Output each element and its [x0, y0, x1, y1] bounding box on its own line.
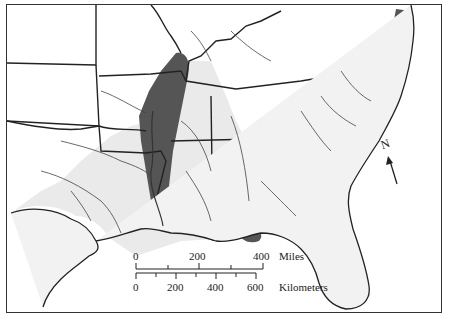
scale-miles-tick-200: 200 — [189, 250, 206, 262]
scale-bar-graphic — [136, 263, 263, 279]
gulf-coastline — [11, 5, 414, 309]
scale-km-tick-200: 200 — [167, 281, 184, 293]
map-frame: 0 200 400 Miles 0 200 400 600 Kilometers… — [6, 4, 442, 313]
scale-km-tick-600: 600 — [247, 281, 264, 293]
scale-miles-tick-400: 400 — [253, 250, 270, 262]
scale-km-unit: Kilometers — [279, 281, 328, 293]
scale-km-tick-400: 400 — [207, 281, 224, 293]
north-arrow-icon — [386, 156, 397, 184]
scale-miles-unit: Miles — [279, 250, 304, 262]
map-canvas — [7, 5, 442, 313]
scale-miles-tick-0: 0 — [133, 250, 139, 262]
scale-km-tick-0: 0 — [133, 281, 139, 293]
